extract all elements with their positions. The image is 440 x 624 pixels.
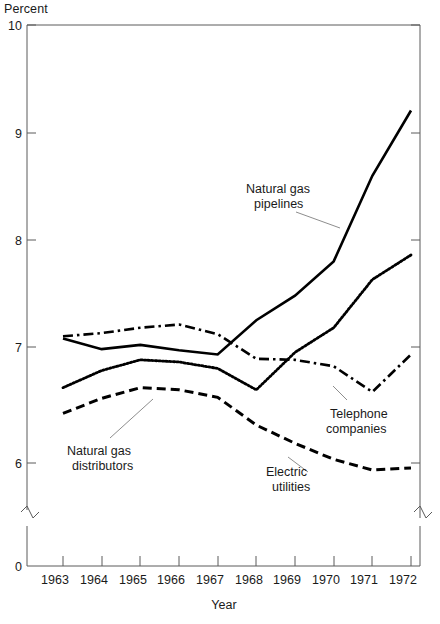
leader-natural-gas-pipelines [296, 212, 340, 228]
annotation-electric-utilities-line2: utilities [272, 480, 310, 494]
y-tick-label-7: 7 [15, 341, 22, 355]
y-tick-label-9: 9 [15, 127, 22, 141]
x-tick-label-1965: 1965 [119, 573, 147, 587]
y-axis-ticks-left [27, 25, 36, 463]
x-tick-label-1964: 1964 [80, 573, 108, 587]
line-chart-figure: Percent 10 [0, 0, 440, 624]
leader-natural-gas-distributors [110, 399, 153, 438]
y-tick-label-0: 0 [15, 560, 22, 574]
annotation-electric-utilities-line1: Electric [266, 465, 307, 479]
x-axis-tick-labels: 1963 1964 1965 1966 1967 1968 1969 1970 … [41, 573, 417, 587]
y-tick-label-8: 8 [15, 234, 22, 248]
x-tick-label-1967: 1967 [196, 573, 224, 587]
x-tick-label-1966: 1966 [157, 573, 185, 587]
annotation-telephone-companies-line2: companies [326, 422, 386, 436]
x-tick-label-1968: 1968 [235, 573, 263, 587]
x-tick-label-1972: 1972 [389, 573, 417, 587]
annotation-natural-gas-pipelines-line1: Natural gas [246, 182, 310, 196]
x-tick-label-1971: 1971 [350, 573, 378, 587]
annotation-natural-gas-pipelines: Natural gas pipelines [246, 182, 310, 211]
y-axis-tick-labels: 10 9 8 7 6 0 [8, 19, 22, 574]
annotation-natural-gas-distributors-line1: Natural gas [67, 444, 131, 458]
y-axis-ticks-right [411, 25, 420, 463]
y-tick-label-6: 6 [15, 457, 22, 471]
leader-telephone-companies [333, 386, 347, 400]
annotation-telephone-companies: Telephone companies [326, 407, 388, 436]
y-tick-label-10: 10 [8, 19, 22, 33]
annotation-telephone-companies-line1: Telephone [330, 407, 388, 421]
axis-break-marks [21, 506, 432, 518]
x-axis-ticks [63, 556, 411, 566]
annotation-natural-gas-distributors: Natural gas distributors [67, 444, 133, 473]
annotation-electric-utilities: Electric utilities [266, 465, 310, 494]
series-line-natural-gas-distributors [63, 255, 411, 390]
series-line-natural-gas-pipelines [63, 111, 411, 355]
x-axis-title: Year [211, 598, 236, 612]
chart-canvas: 10 9 8 7 6 0 1963 1964 1965 1966 1967 [0, 0, 440, 624]
x-tick-label-1969: 1969 [273, 573, 301, 587]
annotation-natural-gas-pipelines-line2: pipelines [254, 197, 303, 211]
annotation-natural-gas-distributors-line2: distributors [72, 459, 133, 473]
x-tick-label-1970: 1970 [312, 573, 340, 587]
series-line-telephone-companies [63, 325, 411, 392]
x-tick-label-1963: 1963 [41, 573, 69, 587]
